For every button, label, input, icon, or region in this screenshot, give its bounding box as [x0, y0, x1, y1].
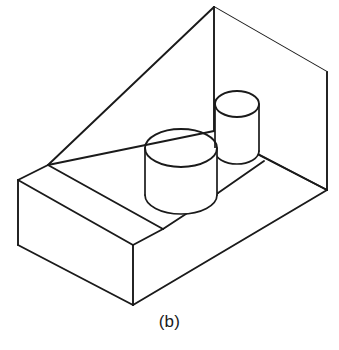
large-cylinder-body-fill — [145, 148, 217, 214]
figure-caption: (b) — [0, 312, 339, 332]
figure-panel: Isometric pictorial of a stepped wedge b… — [0, 0, 339, 350]
face-front-base — [133, 245, 216, 305]
isometric-drawing: Isometric pictorial of a stepped wedge b… — [0, 0, 339, 310]
